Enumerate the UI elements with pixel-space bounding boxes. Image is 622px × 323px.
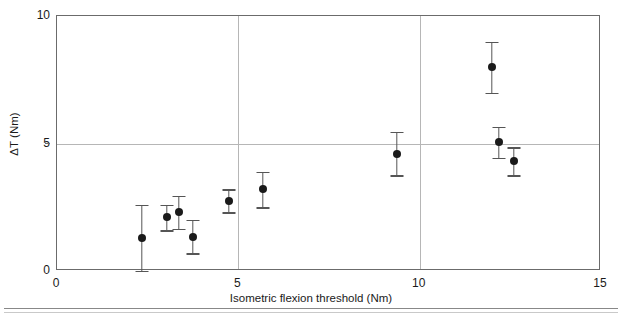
data-point-marker: [495, 138, 503, 146]
error-bar-cap-upper: [222, 189, 235, 190]
data-point-marker: [175, 208, 183, 216]
error-bar-cap-lower: [507, 175, 520, 176]
data-point: [186, 16, 200, 271]
data-point-marker: [259, 185, 267, 193]
data-point-marker: [138, 234, 146, 242]
y-tick-label: 0: [16, 264, 50, 276]
error-bar-cap-upper: [256, 172, 269, 173]
caption-divider-rule: [4, 308, 618, 309]
x-axis-label: Isometric flexion threshold (Nm): [0, 292, 622, 304]
error-bar-cap-upper: [507, 147, 520, 148]
caption-divider-rule-secondary: [4, 312, 618, 313]
error-bar-cap-lower: [256, 207, 269, 208]
x-tick-label: 15: [593, 277, 606, 289]
error-bar-cap-lower: [390, 175, 403, 176]
error-bar-cap-upper: [187, 220, 200, 221]
y-tick-label: 10: [16, 9, 50, 21]
y-axis-label: ΔT (Nm): [8, 84, 20, 184]
error-bar-cap-lower: [135, 271, 148, 272]
x-tick-label: 5: [234, 277, 241, 289]
gridline-vertical: [238, 16, 239, 269]
error-bar-cap-upper: [135, 205, 148, 206]
data-point: [135, 16, 149, 271]
data-point: [256, 16, 270, 271]
error-bar-cap-upper: [492, 127, 505, 128]
figure-container: 0510 051015 Isometric flexion threshold …: [0, 0, 622, 323]
data-point-marker: [393, 150, 401, 158]
data-point-marker: [225, 197, 233, 205]
data-point: [172, 16, 186, 271]
x-tick-label: 0: [53, 277, 60, 289]
data-point-marker: [510, 157, 518, 165]
error-bar-cap-upper: [172, 196, 185, 197]
x-tick-label: 10: [412, 277, 425, 289]
data-point: [222, 16, 236, 271]
error-bar-cap-lower: [187, 253, 200, 254]
data-point: [507, 16, 521, 271]
error-bar-cap-lower: [222, 212, 235, 213]
error-bar-cap-upper: [390, 132, 403, 133]
y-tick-mark: [45, 143, 50, 144]
error-bar-cap-lower: [492, 158, 505, 159]
error-bar-cap-lower: [172, 229, 185, 230]
data-point: [390, 16, 404, 271]
gridline-vertical: [420, 16, 421, 269]
data-point: [492, 16, 506, 271]
data-point-marker: [163, 213, 171, 221]
plot-area: [56, 15, 600, 270]
data-point-marker: [189, 233, 197, 241]
